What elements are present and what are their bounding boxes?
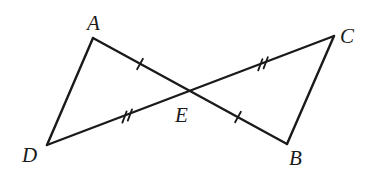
vertex-label-E: E: [174, 103, 188, 127]
segment-DC: [47, 36, 334, 145]
diagram-svg: A C D E B: [0, 0, 378, 181]
vertex-label-B: B: [289, 146, 302, 170]
vertex-label-D: D: [21, 143, 37, 167]
geometry-diagram: A C D E B: [0, 0, 378, 181]
vertex-label-A: A: [85, 11, 100, 35]
vertex-label-C: C: [340, 24, 355, 48]
